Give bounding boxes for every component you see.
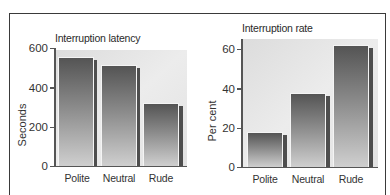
bar-polite: [247, 132, 283, 167]
x-tick-label: Polite: [55, 172, 99, 184]
y-tick-label: 0: [205, 161, 235, 173]
bar-neutral: [101, 65, 137, 166]
bar-rude: [143, 103, 179, 166]
y-axis: [54, 48, 56, 167]
y-tick: [50, 127, 54, 129]
y-tick-label: 600: [18, 42, 48, 54]
bar-shadow: [283, 135, 287, 167]
y-tick: [237, 49, 241, 51]
bar-neutral: [290, 93, 326, 167]
x-tick-label: Rude: [329, 173, 373, 185]
bar-shadow: [179, 106, 183, 166]
y-tick: [237, 128, 241, 130]
y-axis-label: Per cent: [206, 91, 218, 151]
y-axis-label: Seconds: [16, 95, 28, 155]
x-tick-label: Neutral: [286, 173, 330, 185]
y-tick-label: 60: [205, 43, 235, 55]
x-tick-label: Rude: [139, 172, 183, 184]
bar-polite: [58, 57, 94, 166]
y-tick: [50, 166, 54, 168]
y-tick: [237, 167, 241, 169]
y-axis: [241, 39, 243, 167]
y-tick-label: 0: [18, 160, 48, 172]
y-tick: [50, 48, 54, 50]
y-tick: [50, 87, 54, 89]
chart-title: Interruption latency: [55, 32, 140, 44]
y-tick-label: 400: [18, 82, 48, 94]
chart-title: Interruption rate: [242, 22, 313, 34]
x-tick-label: Polite: [243, 173, 287, 185]
x-tick-label: Neutral: [97, 172, 141, 184]
bar-shadow: [369, 48, 373, 167]
y-tick: [237, 88, 241, 90]
bar-shadow: [326, 96, 330, 167]
bar-rude: [333, 45, 369, 167]
